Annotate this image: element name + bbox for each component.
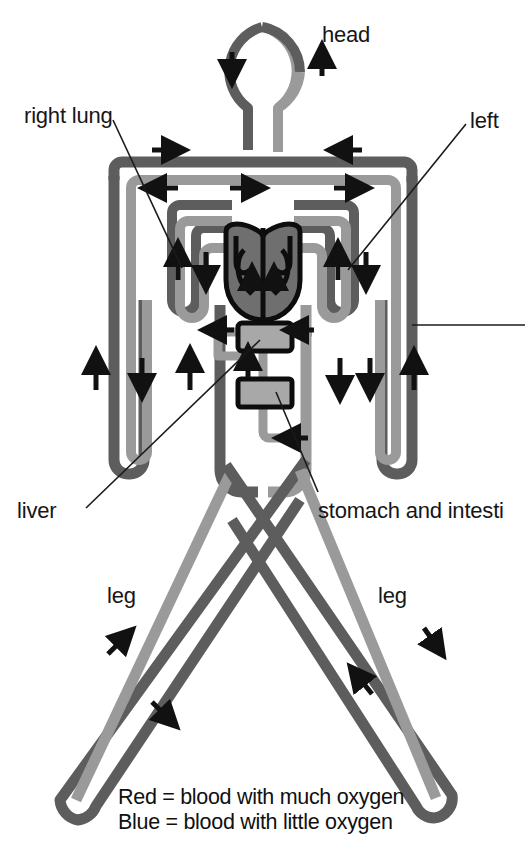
circulation-diagram: head right lung left liver stomach and i… bbox=[0, 0, 525, 861]
label-right-lung: right lung bbox=[24, 103, 113, 129]
diagram-canvas bbox=[0, 0, 525, 861]
legend-line-red: Red = blood with much oxygen bbox=[118, 785, 404, 810]
label-leg-right: leg bbox=[378, 583, 407, 609]
vessel-stomach-out bbox=[263, 408, 304, 438]
label-left-lung: left bbox=[470, 108, 499, 134]
label-head: head bbox=[322, 22, 370, 48]
liver-box bbox=[238, 323, 292, 351]
heart bbox=[226, 224, 300, 320]
arrow-legl-up bbox=[108, 636, 126, 654]
stomach-intestines-box bbox=[238, 379, 292, 407]
legend-line-blue: Blue = blood with little oxygen bbox=[118, 810, 393, 835]
leader-right-lung bbox=[113, 120, 182, 268]
label-stomach-intestines: stomach and intesti bbox=[318, 498, 504, 524]
label-leg-left: leg bbox=[107, 583, 136, 609]
vessel-head-blue-arc bbox=[229, 27, 262, 150]
arrow-legr-down bbox=[424, 628, 438, 648]
label-liver: liver bbox=[17, 498, 56, 524]
vessel-right-arm-red bbox=[380, 192, 396, 460]
